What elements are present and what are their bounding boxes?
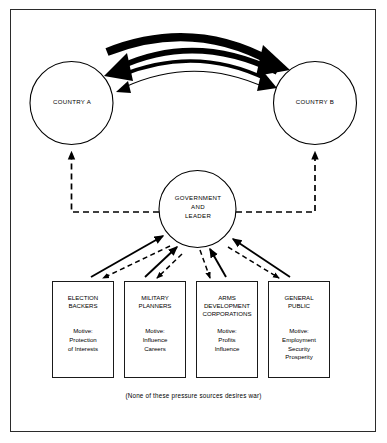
pressure-box-title: MILITARY PLANNERS [125,294,185,310]
pressure-box-military-planners: MILITARY PLANNERS Motive: Influence Care… [124,281,186,378]
escalation-arrowhead-b-to-a-thin [116,81,131,93]
pressure-box-arms-development-corporations: ARMS DEVELOPMENT CORPORATIONS Motive: Pr… [196,281,258,378]
arrow-public-to-government [233,239,290,277]
arrow-government-to-military [157,254,182,278]
pressure-box-title: ELECTION BACKERS [53,294,113,310]
arrow-military-to-government [145,247,177,277]
country-b-circle [274,62,357,145]
pressure-box-general-public: GENERAL PUBLIC Motive: Employment Securi… [268,281,330,378]
figure-caption: (None of these pressure sources desires … [20,392,367,399]
country-a-circle [30,62,113,145]
pressure-box-title: GENERAL PUBLIC [269,294,329,310]
escalation-arrow-b-to-a-thin [125,71,266,88]
arrow-arms-to-government [210,249,226,277]
government-circle [159,171,236,248]
escalation-arrowhead-b-to-a-thick [104,53,133,81]
pressure-box-title: ARMS DEVELOPMENT CORPORATIONS [197,294,257,319]
pressure-box-motive: Motive: Protection of Interests [53,327,113,353]
government-to-country-b-link [236,152,315,212]
pressure-box-motive: Motive: Employment Security Prosperity [269,327,329,362]
pressure-box-motive: Motive: Profits Influence [197,327,257,353]
figure-root: COUNTRY A COUNTRY B GOVERNMENT AND LEADE… [0,0,387,443]
pressure-box-election-backers: ELECTION BACKERS Motive: Protection of I… [52,281,114,378]
escalation-arrow-a-to-b-medium [119,61,268,80]
government-to-country-a-link [72,152,160,212]
arrow-government-to-arms [200,250,210,278]
pressure-box-motive: Motive: Influence Careers [125,327,185,353]
